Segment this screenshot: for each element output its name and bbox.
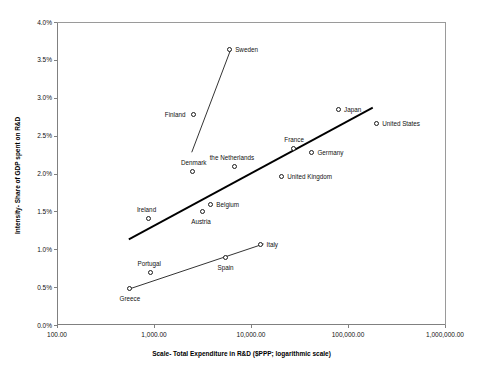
y-tick-label: 0.0%: [17, 322, 52, 329]
y-tick-label: 2.0%: [17, 170, 52, 177]
y-tick-mark: [54, 136, 57, 137]
data-point-label: the Netherlands: [210, 154, 254, 161]
data-point-marker[interactable]: [336, 107, 341, 112]
x-axis-title: Scale- Total Expenditure in R&D ($PPP; l…: [0, 350, 483, 357]
data-point-marker[interactable]: [190, 169, 195, 174]
data-point-label: Spain: [217, 264, 233, 271]
data-point-label: France: [284, 136, 304, 143]
data-point-label: Portugal: [138, 260, 161, 267]
y-tick-mark: [54, 98, 57, 99]
plot-frame-top: [57, 22, 445, 23]
data-point-label: Germany: [317, 149, 343, 156]
data-point-label: Ireland: [137, 206, 156, 213]
data-point-label: Denmark: [181, 159, 207, 166]
x-tick-label: 100.00: [22, 331, 92, 338]
y-tick-mark: [54, 287, 57, 288]
y-tick-label: 3.5%: [17, 56, 52, 63]
y-tick-label: 1.5%: [17, 208, 52, 215]
y-tick-label: 3.0%: [17, 94, 52, 101]
y-tick-label: 4.0%: [17, 19, 52, 26]
plot-frame-right: [445, 22, 446, 325]
x-tick-label: 100,000.00: [313, 331, 383, 338]
x-tick-label: 1,000.00: [119, 331, 189, 338]
data-point-label: Italy: [266, 241, 278, 248]
x-tick-mark: [57, 325, 58, 328]
data-point-label: United Kingdom: [287, 173, 332, 180]
data-point-label: Sweden: [235, 46, 258, 53]
y-tick-mark: [54, 249, 57, 250]
plot-area: [57, 22, 445, 325]
y-tick-mark: [54, 174, 57, 175]
data-point-label: Greece: [120, 295, 141, 302]
data-point-label: Japan: [344, 106, 361, 113]
x-tick-label: 1,000,000.00: [410, 331, 480, 338]
x-tick-label: 10,000.00: [216, 331, 286, 338]
data-point-marker[interactable]: [146, 216, 151, 221]
x-tick-mark: [154, 325, 155, 328]
y-tick-label: 0.5%: [17, 284, 52, 291]
data-point-label: Austria: [191, 218, 211, 225]
x-tick-mark: [251, 325, 252, 328]
data-point-marker[interactable]: [374, 121, 379, 126]
y-tick-mark: [54, 60, 57, 61]
data-point-marker[interactable]: [127, 286, 132, 291]
y-tick-label: 1.0%: [17, 246, 52, 253]
data-point-label: Belgium: [216, 201, 239, 208]
y-tick-label: 2.5%: [17, 132, 52, 139]
x-tick-mark: [348, 325, 349, 328]
y-axis-title: Intensity- Share of GDP spent on R&D: [14, 116, 21, 233]
data-point-marker[interactable]: [208, 202, 213, 207]
y-tick-mark: [54, 211, 57, 212]
x-tick-mark: [445, 325, 446, 328]
scatter-chart: 0.0%0.5%1.0%1.5%2.0%2.5%3.0%3.5%4.0% 100…: [0, 0, 483, 372]
data-point-label: Finland: [165, 111, 186, 118]
y-tick-mark: [54, 22, 57, 23]
data-point-label: United States: [382, 120, 420, 127]
